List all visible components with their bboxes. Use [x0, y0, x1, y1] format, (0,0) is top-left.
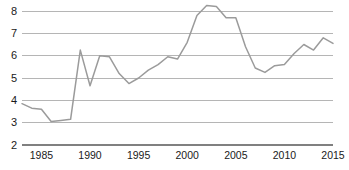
x-axis-tick-label: 1990: [70, 150, 110, 161]
x-axis-tick-label: 1985: [21, 150, 61, 161]
y-axis-tick-label: 7: [0, 28, 17, 39]
y-axis-tick-label: 3: [0, 117, 17, 128]
y-axis-tick-label: 2: [0, 140, 17, 151]
x-axis-tick-label: 1995: [119, 150, 159, 161]
x-axis-tick-label: 2010: [264, 150, 304, 161]
x-axis-tick-label: 2015: [313, 150, 349, 161]
data-series-lines: [22, 5, 333, 121]
y-axis-tick-label: 8: [0, 6, 17, 17]
series-line: [22, 5, 333, 121]
y-axis-tick-label: 6: [0, 50, 17, 61]
y-axis-tick-label: 5: [0, 73, 17, 84]
y-axis-tick-label: 4: [0, 95, 17, 106]
x-axis-tick-label: 2005: [216, 150, 256, 161]
gridlines: [22, 11, 333, 123]
x-axis-tick-label: 2000: [167, 150, 207, 161]
